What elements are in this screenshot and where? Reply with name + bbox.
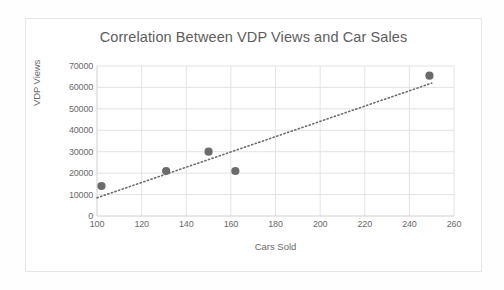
x-tick-label: 160: [224, 219, 238, 229]
x-axis-tick-labels: 100120140160180200220240260: [97, 219, 454, 233]
data-point: [231, 167, 239, 175]
chart-title: Correlation Between VDP Views and Car Sa…: [25, 29, 482, 45]
plot-area: [97, 66, 454, 216]
x-tick-label: 100: [90, 219, 104, 229]
x-tick-label: 240: [402, 219, 416, 229]
x-tick-label: 200: [313, 219, 327, 229]
y-axis-title: VDP Views: [31, 60, 42, 106]
x-tick-label: 120: [134, 219, 148, 229]
y-tick-label: 70000: [69, 61, 93, 71]
data-point: [97, 182, 105, 190]
data-point: [425, 72, 433, 80]
data-point: [162, 167, 170, 175]
data-point: [204, 148, 212, 156]
data-points: [97, 72, 433, 191]
chart-page: Correlation Between VDP Views and Car Sa…: [0, 0, 504, 290]
y-tick-label: 40000: [69, 125, 93, 135]
x-tick-label: 180: [268, 219, 282, 229]
x-tick-label: 260: [447, 219, 461, 229]
y-tick-label: 50000: [69, 104, 93, 114]
y-tick-label: 20000: [69, 168, 93, 178]
y-tick-label: 10000: [69, 190, 93, 200]
plot-svg: [97, 66, 454, 216]
grid-lines: [97, 66, 454, 216]
x-tick-label: 140: [179, 219, 193, 229]
x-tick-label: 220: [358, 219, 372, 229]
trendline-segment: [97, 83, 432, 198]
y-axis-tick-labels: 010000200003000040000500006000070000: [52, 66, 93, 216]
x-axis-title: Cars Sold: [97, 241, 454, 252]
trendline: [97, 83, 432, 198]
y-tick-label: 60000: [69, 82, 93, 92]
y-tick-label: 30000: [69, 147, 93, 157]
